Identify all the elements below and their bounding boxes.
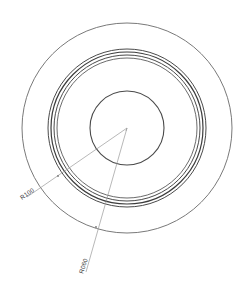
dimension-leader-group [27, 128, 127, 272]
radius-dimension-2-label: R060 [77, 257, 89, 274]
leader-arrow-1 [57, 175, 59, 177]
dimension-label-group: R100R060 [19, 186, 89, 274]
leader-arrow-2 [95, 226, 97, 228]
cad-drawing-canvas: R100R060 [0, 0, 239, 291]
leader-line-1 [27, 128, 127, 197]
cad-drawing-svg: R100R060 [0, 0, 239, 291]
leader-line-2 [86, 128, 127, 272]
radius-dimension-1-label: R100 [19, 186, 36, 201]
